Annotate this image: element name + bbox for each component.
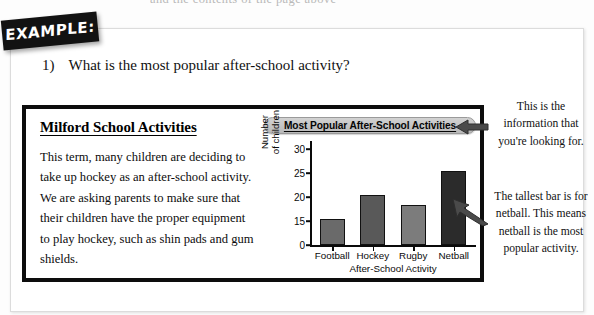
- x-tick-label-football: Football: [315, 250, 350, 261]
- y-tick-mark: [306, 196, 310, 198]
- article-title: Milford School Activities: [40, 119, 268, 136]
- x-tick-label-netball: Netball: [439, 250, 470, 261]
- y-tick-mark: [306, 244, 310, 246]
- resource-panel: Milford School Activities This term, man…: [22, 105, 484, 282]
- example-banner-label: EXAMPLE:: [5, 18, 95, 45]
- annotation-information: This is the information that you're look…: [493, 98, 589, 150]
- x-axis-label: After-School Activity: [310, 263, 476, 274]
- question-row: 1) What is the most popular after-school…: [42, 57, 350, 74]
- arrow-left-icon: [455, 119, 489, 139]
- screenshot-root: and the contents of the page above EXAMP…: [0, 0, 594, 315]
- chart-title-banner: Most Popular After-School Activities: [264, 117, 476, 134]
- x-tick-label-rugby: Rugby: [399, 250, 427, 261]
- cut-off-text-above: and the contents of the page above: [150, 0, 480, 6]
- annotation-tallest-bar: The tallest bar is for netball. This mea…: [493, 188, 589, 258]
- x-axis-line: [310, 245, 476, 247]
- chart-title-text: Most Popular After-School Activities: [284, 120, 456, 131]
- x-tick-label-hockey: Hockey: [356, 250, 389, 261]
- bar-football: [320, 219, 345, 245]
- y-tick-label: 0: [299, 240, 305, 251]
- plot-area: Number of children 015202530 FootballHoc…: [264, 139, 480, 279]
- question-number: 1): [42, 57, 55, 74]
- y-axis-label-line2: of children: [271, 97, 282, 167]
- arrow-up-left-icon: [452, 196, 492, 230]
- y-tick-label: 25: [294, 168, 305, 179]
- y-tick-label: 20: [294, 192, 305, 203]
- article: Milford School Activities This term, man…: [40, 119, 268, 269]
- y-tick-mark: [306, 172, 310, 174]
- article-body: This term, many children are deciding to…: [40, 147, 255, 269]
- y-tick-label: 15: [294, 216, 305, 227]
- y-axis-label-line1: Number: [259, 115, 270, 149]
- bar-rugby: [401, 205, 426, 245]
- bar-hockey: [360, 195, 385, 245]
- y-tick-label: 30: [294, 144, 305, 155]
- plot-frame: 015202530 FootballHockeyRugbyNetball: [310, 141, 476, 247]
- y-tick-mark: [306, 220, 310, 222]
- y-tick-mark: [306, 148, 310, 150]
- question-text: What is the most popular after-school ac…: [69, 57, 350, 74]
- bar-chart: Most Popular After-School Activities Num…: [264, 115, 480, 280]
- y-axis-label: Number of children: [260, 97, 281, 167]
